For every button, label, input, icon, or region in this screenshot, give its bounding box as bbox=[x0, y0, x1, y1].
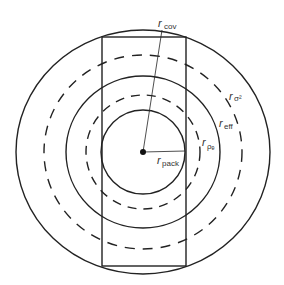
svg-text:pack: pack bbox=[162, 159, 180, 168]
label-r-rho: r ρₑ bbox=[202, 136, 215, 151]
label-r-eff: r eff bbox=[219, 117, 234, 131]
svg-text:cov: cov bbox=[164, 22, 176, 31]
concentric-radii-diagram: r cov r σ² r eff r ρₑ r pack bbox=[0, 0, 284, 285]
label-r-cov: r cov bbox=[158, 17, 176, 31]
label-r-pack: r pack bbox=[157, 154, 180, 168]
svg-text:σ²: σ² bbox=[234, 94, 242, 103]
svg-text:eff: eff bbox=[224, 122, 234, 131]
svg-text:r: r bbox=[158, 17, 163, 29]
r-cov-radius-line bbox=[143, 30, 162, 152]
center-point bbox=[140, 149, 146, 155]
r-pack-radius-line bbox=[143, 151, 185, 152]
label-r-sigma2: r σ² bbox=[229, 90, 242, 103]
svg-text:ρₑ: ρₑ bbox=[207, 142, 215, 151]
